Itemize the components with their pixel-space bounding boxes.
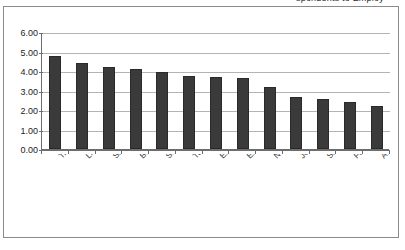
bar [103, 67, 115, 149]
y-tick-mark [39, 53, 43, 54]
x-tick-label: Transportation [57, 154, 63, 160]
chart-frame: 0.001.002.003.004.005.006.00 Transportat… [3, 6, 399, 238]
bar [210, 77, 222, 149]
x-tick-label: Academic Requirement [379, 154, 385, 160]
bar [290, 97, 302, 149]
x-tick-label: Living Expenses [84, 154, 90, 160]
x-tick-label: Savings [111, 154, 117, 160]
bar [344, 102, 356, 149]
gridline [42, 72, 390, 73]
y-tick-label: 3.00 [8, 87, 38, 97]
clipped-page-title-text: spondents to Employ [296, 0, 384, 3]
y-tick-label: 1.00 [8, 126, 38, 136]
y-axis: 0.001.002.003.004.005.006.00 [4, 33, 38, 150]
bar [130, 69, 142, 149]
y-tick-mark [39, 33, 43, 34]
x-tick-label: Education Debt [245, 154, 251, 160]
x-axis-labels: TransportationLiving ExpensesSavingsBook… [4, 154, 400, 238]
bar [371, 106, 383, 149]
x-tick-label: Support Family [325, 154, 331, 160]
gridline [42, 33, 390, 34]
x-tick-label: Books/Supplies [138, 154, 144, 160]
bar [237, 78, 249, 149]
bar [76, 63, 88, 149]
plot-area [41, 33, 389, 150]
x-tick-label: Experience [218, 154, 224, 160]
x-tick-label: Social/Entertainment [164, 154, 170, 160]
bar [183, 76, 195, 149]
y-tick-mark [39, 111, 43, 112]
bar [156, 72, 168, 149]
bar [49, 56, 61, 149]
bar [264, 87, 276, 149]
y-tick-label: 2.00 [8, 106, 38, 116]
x-tick-label: Tuition and Fees [191, 154, 197, 160]
y-tick-label: 6.00 [8, 28, 38, 38]
y-tick-mark [39, 131, 43, 132]
x-tick-label: Family Demands It [352, 154, 358, 160]
gridline [42, 53, 390, 54]
bar [317, 99, 329, 149]
y-tick-mark [39, 92, 43, 93]
x-tick-label: Non-Education Debt [272, 154, 278, 160]
y-tick-label: 4.00 [8, 67, 38, 77]
x-tick-label: Job Prior to College [298, 154, 304, 160]
y-tick-mark [39, 72, 43, 73]
y-tick-label: 5.00 [8, 48, 38, 58]
